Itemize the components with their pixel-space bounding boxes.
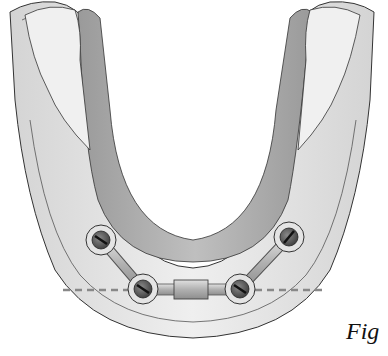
implant-2: [128, 274, 158, 304]
implant-3: [225, 274, 255, 304]
figure-caption: Fig: [346, 318, 379, 345]
implant-1: [86, 225, 116, 255]
implant-4: [274, 222, 304, 252]
dental-arch-diagram: [0, 0, 388, 356]
bar-clip: [174, 280, 208, 299]
